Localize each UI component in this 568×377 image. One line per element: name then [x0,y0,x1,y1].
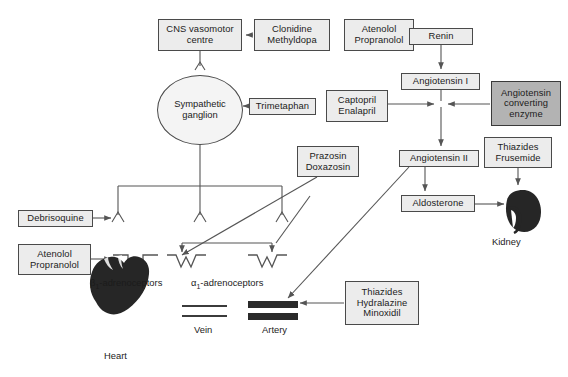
node-atenolol-propranolol-beta1[interactable]: Atenolol Propranolol [18,244,91,275]
node-line: Methyldopa [267,35,316,46]
node-line: centre [187,35,214,46]
node-line: Frusemide [495,153,540,164]
node-clonidine-methyldopa[interactable]: Clonidine Methyldopa [254,19,330,51]
node-line: Angiotensin II [410,153,468,164]
node-cns-vasomotor-centre[interactable]: CNS vasomotor centre [158,19,242,51]
node-line: ganglion [182,110,217,121]
alpha1-adrenoceptors-label: α1-adrenoceptors [191,277,263,290]
node-sympathetic-ganglion[interactable]: Sympathetic ganglion [157,75,243,145]
vein-shape [182,306,227,316]
node-renin[interactable]: Renin [409,28,473,45]
node-line: Thiazides [498,142,539,153]
alpha1-receptor-vein-shape [167,255,206,267]
node-captopril-enalapril[interactable]: Captopril Enalapril [326,90,388,122]
node-debrisoquine[interactable]: Debrisoquine [18,210,93,227]
node-atenolol-propranolol-renin[interactable]: Atenolol Propranolol [344,19,414,51]
alpha1-receptor-artery-shape [248,255,287,267]
node-thiazides-hydralazine-minoxidil[interactable]: Thiazides Hydralazine Minoxidil [345,281,419,325]
node-angiotensin-ii[interactable]: Angiotensin II [399,150,479,167]
artery-shape [248,301,298,320]
node-line: Minoxidil [363,308,400,319]
node-line: Enalapril [338,106,375,117]
node-line: Trimetaphan [256,101,309,112]
arrow-angio2-to-artery [288,167,409,298]
node-thiazides-frusemide[interactable]: Thiazides Frusemide [484,137,552,168]
node-line: Atenolol [37,249,72,260]
node-angiotensin-i[interactable]: Angiotensin I [401,73,480,90]
node-line: Angiotensin I [413,76,468,87]
node-line: Doxazosin [306,162,351,173]
beta1-adrenoceptors-label: β1-adrenoceptors [90,277,162,290]
node-angiotensin-converting-enzyme[interactable]: Angiotensin converting enzyme [491,81,561,126]
node-line: Renin [429,31,454,42]
node-line: Prazosin [309,151,346,162]
vein-label: Vein [194,324,212,335]
node-line: Propranolol [355,35,404,46]
diagram-connectors [0,0,568,377]
node-line: enzyme [509,109,542,120]
diagram-canvas: CNS vasomotor centre Clonidine Methyldop… [0,0,568,377]
line-prazosin-feed [276,196,310,243]
node-trimetaphan[interactable]: Trimetaphan [249,98,316,115]
node-prazosin-doxazosin[interactable]: Prazosin Doxazosin [297,146,359,177]
node-line: Propranolol [30,260,79,271]
kidney-label: Kidney [492,236,521,247]
kidney-icon [506,190,541,233]
node-aldosterone[interactable]: Aldosterone [401,195,475,212]
node-line: Debrisoquine [27,213,83,224]
heart-label: Heart [104,350,127,361]
artery-label: Artery [262,324,287,335]
node-line: Aldosterone [412,198,463,209]
